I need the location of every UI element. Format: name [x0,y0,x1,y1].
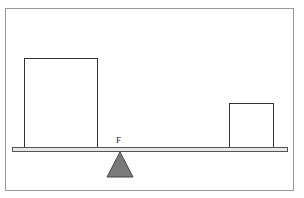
fulcrum-triangle-icon [0,0,304,198]
